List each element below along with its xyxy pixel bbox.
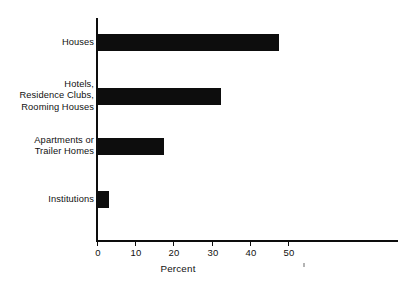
x-axis-title-text: Percent xyxy=(160,263,195,274)
category-label-institutions: Institutions xyxy=(48,194,94,205)
x-tick-label-50: 50 xyxy=(274,247,304,258)
x-tick-label-10: 10 xyxy=(121,247,151,258)
scan-artifact-speck xyxy=(303,263,305,267)
bar-apartments-or-trailer-homes xyxy=(97,138,164,155)
x-tick-mark-0 xyxy=(97,242,98,246)
x-tick-mark-20 xyxy=(173,242,174,246)
x-tick-mark-10 xyxy=(135,242,136,246)
x-tick-label-30: 30 xyxy=(198,247,228,258)
y-axis-line xyxy=(96,18,98,242)
x-axis-line xyxy=(96,240,398,242)
x-axis-title: Percent xyxy=(0,263,404,274)
x-tick-mark-40 xyxy=(250,242,251,246)
x-tick-label-40: 40 xyxy=(236,247,266,258)
bar-chart-figure: 0 10 20 30 40 50 Houses Hotels, Residenc… xyxy=(0,0,404,286)
x-tick-label-20: 20 xyxy=(159,247,189,258)
bar-institutions xyxy=(97,191,109,208)
plot-area: 0 10 20 30 40 50 Houses Hotels, Residenc… xyxy=(0,0,404,286)
x-tick-mark-30 xyxy=(212,242,213,246)
x-tick-mark-50 xyxy=(288,242,289,246)
category-label-apartments-or-trailer-homes: Apartments or Trailer Homes xyxy=(34,135,94,158)
x-tick-label-0: 0 xyxy=(83,247,113,258)
category-label-hotels-residence-clubs-rooming-houses: Hotels, Residence Clubs, Rooming Houses xyxy=(20,79,94,113)
bar-houses xyxy=(97,34,279,51)
bar-hotels-residence-clubs-rooming-houses xyxy=(97,88,221,105)
category-label-houses: Houses xyxy=(62,37,94,48)
